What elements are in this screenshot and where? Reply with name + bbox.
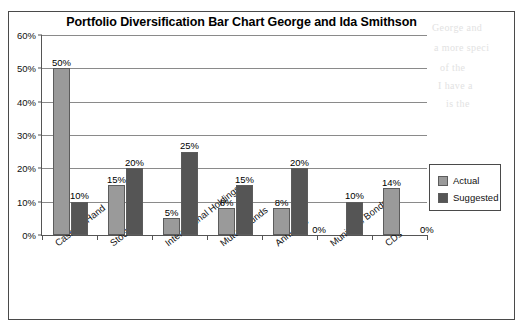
y-axis-label: 20%: [17, 163, 36, 174]
bar-suggested[interactable]: 10%: [71, 202, 88, 235]
chart-title: Portfolio Diversification Bar Chart Geor…: [9, 15, 514, 29]
legend-swatch-icon: [438, 193, 448, 203]
chart-legend: Actual Suggested: [429, 164, 501, 211]
x-axis-tick: [262, 235, 263, 240]
bar-suggested[interactable]: 25%: [181, 152, 198, 235]
bar-suggested[interactable]: 15%: [236, 185, 253, 235]
legend-item-actual[interactable]: Actual: [438, 175, 494, 186]
bar-value-label: 0%: [312, 225, 326, 235]
y-axis-label: 60%: [17, 30, 36, 41]
y-axis-label: 10%: [17, 196, 36, 207]
bar-suggested[interactable]: 20%: [291, 168, 308, 235]
bar-value-label: 50%: [52, 58, 71, 68]
bar-value-label: 25%: [180, 141, 199, 151]
bar-value-label: 14%: [382, 178, 401, 188]
x-axis-tick: [97, 235, 98, 240]
bar-value-label: 15%: [107, 175, 126, 185]
bar-value-label: 10%: [345, 191, 364, 201]
y-axis-label: 50%: [17, 63, 36, 74]
plot-area: 0%10%20%30%40%50%60%Cash on Hand50%10%St…: [41, 35, 427, 236]
x-axis-tick: [317, 235, 318, 240]
bar-value-label: 8%: [275, 198, 289, 208]
chart-container: Portfolio Diversification Bar Chart Geor…: [8, 11, 515, 320]
legend-label: Suggested: [453, 192, 498, 203]
bar-suggested[interactable]: 10%: [346, 202, 363, 235]
bar-value-label: 20%: [290, 158, 309, 168]
y-axis-label: 40%: [17, 96, 36, 107]
bar-value-label: 15%: [235, 175, 254, 185]
bar-actual[interactable]: 50%: [53, 68, 70, 235]
bar-group: 8%20%: [262, 35, 317, 235]
bar-group: 14%0%: [372, 35, 427, 235]
y-axis-label: 30%: [17, 130, 36, 141]
y-axis-label: 0%: [22, 230, 36, 241]
bar-group: 8%15%: [207, 35, 262, 235]
x-axis-tick: [42, 235, 43, 240]
legend-label: Actual: [453, 175, 479, 186]
bar-actual[interactable]: 14%: [383, 188, 400, 235]
legend-swatch-icon: [438, 176, 448, 186]
bar-value-label: 0%: [420, 225, 434, 235]
bar-value-label: 20%: [125, 158, 144, 168]
bar-value-label: 8%: [220, 198, 234, 208]
bar-actual[interactable]: 8%: [218, 208, 235, 235]
x-axis-tick: [207, 235, 208, 240]
x-axis-tick: [372, 235, 373, 240]
bar-value-label: 5%: [165, 208, 179, 218]
bar-group: 50%10%: [42, 35, 97, 235]
bar-actual[interactable]: 15%: [108, 185, 125, 235]
bar-group: 0%10%: [317, 35, 372, 235]
legend-item-suggested[interactable]: Suggested: [438, 192, 494, 203]
bar-group: 15%20%: [97, 35, 152, 235]
bar-value-label: 10%: [70, 191, 89, 201]
bar-group: 5%25%: [152, 35, 207, 235]
x-axis-tick: [427, 235, 428, 240]
bar-suggested[interactable]: 20%: [126, 168, 143, 235]
bar-actual[interactable]: 5%: [163, 218, 180, 235]
bar-actual[interactable]: 8%: [273, 208, 290, 235]
x-axis-tick: [152, 235, 153, 240]
